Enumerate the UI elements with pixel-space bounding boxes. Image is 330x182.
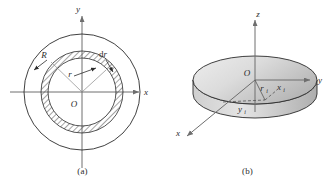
svg-text:x: x: [276, 82, 281, 92]
caption-panel-a: (a): [0, 166, 165, 176]
label-x-axis: x: [175, 128, 180, 138]
label-x-axis: x: [143, 87, 148, 97]
label-y-axis: y: [75, 4, 80, 14]
caption-panel-b: (b): [165, 166, 330, 176]
label-origin-O: O: [71, 99, 78, 109]
label-inner-radius-r: r: [68, 69, 72, 79]
label-outer-radius-R: R: [40, 50, 47, 60]
figure-root: R r dr O x y (a): [0, 0, 330, 182]
panel-a-svg: R r dr O x y: [0, 0, 165, 182]
label-z-axis: z: [255, 9, 260, 19]
panel-b-svg: O r i x i y i z y x: [165, 0, 330, 182]
label-y-axis: y: [317, 75, 322, 85]
panel-b-disk-diagram: O r i x i y i z y x (b): [165, 0, 330, 182]
panel-a-annulus-diagram: R r dr O x y (a): [0, 0, 165, 182]
annular-ring-element: [0, 0, 165, 182]
label-ring-width-dr: dr: [99, 49, 108, 59]
svg-text:y: y: [237, 104, 242, 114]
label-origin-O: O: [244, 68, 251, 78]
svg-text:r: r: [260, 83, 264, 93]
